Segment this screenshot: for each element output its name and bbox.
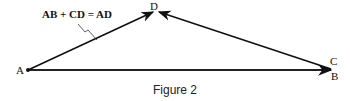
point-d-label: D [150,0,158,12]
point-c-label: C [330,55,337,67]
point-a-dot [26,68,30,72]
figure-caption: Figure 2 [0,83,350,97]
label-leader [78,24,97,40]
vector-cd [159,12,331,69]
vector-ad [28,12,153,70]
point-b-label: B [331,70,338,82]
point-a-label: A [16,64,24,76]
equation-label: AB + CD = AD [42,8,112,20]
